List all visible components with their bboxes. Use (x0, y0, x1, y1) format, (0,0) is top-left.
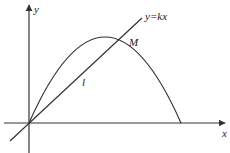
x-axis-label: x (221, 127, 227, 139)
diagram-canvas: y x y=kx M l (0, 0, 230, 153)
y-axis-label: y (33, 3, 39, 15)
segment-l-label: l (82, 76, 85, 88)
parabola-curve (29, 37, 181, 123)
line-equation-label: y=kx (144, 10, 167, 22)
point-m-label: M (128, 36, 139, 48)
